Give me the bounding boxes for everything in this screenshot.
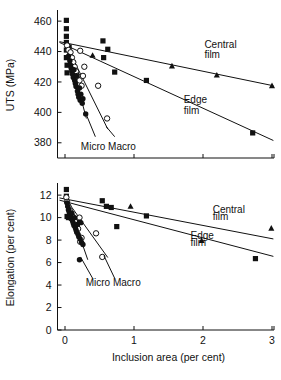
open-circle-marker <box>82 64 87 69</box>
callout-leader <box>86 113 96 137</box>
filled-triangle-marker <box>128 203 134 209</box>
y-tick-label: 460 <box>34 15 52 27</box>
filled-triangle-marker <box>268 225 274 231</box>
series-filled-square <box>64 187 258 261</box>
filled-circle-marker <box>67 58 72 63</box>
callout-leader <box>104 256 115 278</box>
y-tick-label: 12 <box>40 189 52 201</box>
filled-circle-marker <box>78 220 83 225</box>
y-tick-label: 400 <box>34 106 52 118</box>
filled-circle-marker <box>80 101 85 106</box>
filled-square-marker <box>101 55 106 60</box>
filled-square-marker <box>64 18 69 23</box>
annotation-edge: Edge <box>184 94 208 105</box>
annotation-central: Central <box>204 39 236 50</box>
annotation-film: film <box>184 105 200 116</box>
filled-circle-marker <box>74 73 79 78</box>
filled-triangle-marker <box>90 52 96 58</box>
y-tick-label: 2 <box>46 301 52 313</box>
filled-square-marker <box>114 224 119 229</box>
y-tick-label: 10 <box>40 211 52 223</box>
annotation-film: film <box>191 237 207 248</box>
filled-square-marker <box>64 26 69 31</box>
scatter-chart-panel-pair: 380400420440460UTS (MPa)CentralfilmEdgef… <box>0 0 281 380</box>
x-tick-label: 2 <box>200 334 206 346</box>
filled-square-marker <box>100 38 105 43</box>
y-tick-label: 440 <box>34 45 52 57</box>
series-filled-circle <box>66 53 89 116</box>
series-filled-square <box>64 18 256 136</box>
filled-square-marker <box>64 187 69 192</box>
open-circle-marker <box>77 48 82 53</box>
filled-square-marker <box>64 70 69 75</box>
filled-circle-marker <box>80 242 85 247</box>
annotation-micro-macro: Micro Macro <box>86 277 141 288</box>
y-tick-label: 8 <box>46 234 52 246</box>
y-tick-label: 6 <box>46 256 52 268</box>
x-tick-label: 0 <box>62 334 68 346</box>
filled-square-marker <box>144 78 149 83</box>
x-axis-title: Inclusion area (per cent) <box>112 351 225 363</box>
y-tick-label: 4 <box>46 279 52 291</box>
uts-panel: 380400420440460UTS (MPa)CentralfilmEdgef… <box>4 10 275 158</box>
x-tick-label: 3 <box>269 334 275 346</box>
open-circle-marker <box>80 73 85 78</box>
series-open-circle <box>64 43 109 121</box>
series-filled-triangle <box>90 52 275 88</box>
filled-square-marker <box>112 69 117 74</box>
open-circle-marker <box>93 231 98 236</box>
filled-square-marker <box>144 213 149 218</box>
y-tick-label: 0 <box>46 324 52 336</box>
series-filled-circle <box>64 200 85 262</box>
figure-container: 380400420440460UTS (MPa)CentralfilmEdgef… <box>0 0 281 380</box>
y-tick-label: 420 <box>34 76 52 88</box>
filled-square-marker <box>105 47 110 52</box>
filled-square-marker <box>64 34 69 39</box>
filled-square-marker <box>104 204 109 209</box>
filled-square-marker <box>250 130 255 135</box>
elongation-panel: 024681012Elongation (per cent)Centralfil… <box>4 183 274 336</box>
y-axis-title: UTS (MPa) <box>4 59 16 112</box>
filled-circle-marker <box>72 215 77 220</box>
callout-leader <box>81 257 93 278</box>
filled-circle-marker <box>77 85 82 90</box>
filled-circle-marker <box>69 210 74 215</box>
y-axis-title: Elongation (per cent) <box>4 209 16 306</box>
filled-square-marker <box>109 205 114 210</box>
annotation-film: film <box>204 49 220 60</box>
open-circle-marker <box>95 83 100 88</box>
annotation-micro-macro: Micro Macro <box>81 141 136 152</box>
x-tick-label: 1 <box>131 334 137 346</box>
callout-leader <box>106 127 114 137</box>
y-tick-label: 380 <box>34 136 52 148</box>
filled-circle-marker <box>66 53 71 58</box>
shared-x-axis: 0123Inclusion area (per cent) <box>58 326 276 363</box>
annotation-film: film <box>213 211 229 222</box>
open-circle-marker <box>104 116 109 121</box>
filled-square-marker <box>100 198 105 203</box>
filled-square-marker <box>253 256 258 261</box>
filled-circle-marker <box>71 67 76 72</box>
trendline-central-film <box>59 42 273 86</box>
filled-circle-marker <box>80 96 85 101</box>
